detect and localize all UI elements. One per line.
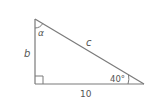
right-angle-marker [35, 76, 43, 84]
triangle-diagram: b c 10 40° α [0, 0, 153, 100]
label-c: c [86, 37, 92, 48]
label-40-degrees: 40° [110, 74, 125, 84]
triangle-svg: b c 10 40° α [0, 0, 153, 100]
label-b: b [24, 48, 30, 59]
side-c-hypotenuse [35, 19, 144, 84]
label-alpha: α [38, 28, 44, 38]
label-10: 10 [80, 89, 92, 99]
forty-degree-angle-arc [128, 75, 129, 84]
